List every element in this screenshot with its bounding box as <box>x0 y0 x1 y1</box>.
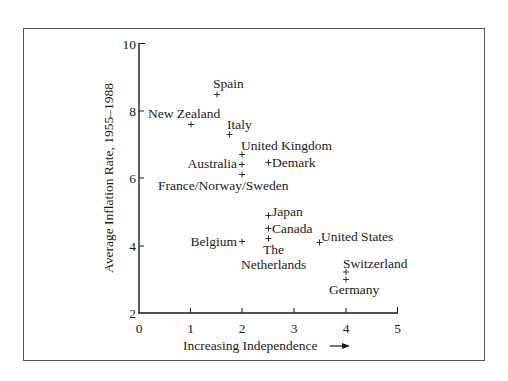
label-australia: Australia <box>188 156 238 171</box>
x-tick-label: 3 <box>291 321 298 336</box>
x-tick-label: 1 <box>187 321 194 336</box>
label-fns: France/Norway/Sweden <box>158 178 289 193</box>
x-tick-label: 4 <box>343 321 350 336</box>
marker-italy <box>227 132 233 138</box>
marker-spain <box>214 92 220 98</box>
y-tick-label: 4 <box>129 239 136 254</box>
point-labels: Spain New Zealand Italy United Kingdom A… <box>148 76 408 297</box>
marker-belgium <box>239 239 245 245</box>
x-axis-title: Increasing Independence <box>183 338 318 353</box>
label-belgium: Belgium <box>191 234 238 249</box>
x-tick-label: 0 <box>136 321 143 336</box>
label-switzerland: Switzerland <box>343 256 408 271</box>
label-netherlands-line1: The <box>263 242 284 257</box>
arrow-right-icon <box>330 343 350 349</box>
scatter-chart: 2 4 6 8 10 0 1 2 3 4 5 Increasing Indepe… <box>0 0 508 381</box>
y-ticks: 2 4 6 8 10 <box>123 37 146 321</box>
label-us: United States <box>321 229 393 244</box>
marker-denmark <box>266 160 272 166</box>
marker-fns <box>239 172 245 178</box>
label-japan: Japan <box>272 204 303 219</box>
label-uk: United Kingdom <box>241 138 333 153</box>
x-ticks: 0 1 2 3 4 5 <box>136 307 402 336</box>
x-tick-label: 5 <box>394 321 401 336</box>
y-tick-label: 6 <box>129 171 136 186</box>
label-canada: Canada <box>272 221 312 236</box>
y-tick-label: 2 <box>129 306 136 321</box>
label-spain: Spain <box>213 76 244 91</box>
marker-canada <box>266 226 272 232</box>
y-tick-label: 10 <box>123 37 137 52</box>
y-tick-label: 8 <box>129 104 136 119</box>
label-denmark: Demark <box>272 155 316 170</box>
x-tick-label: 2 <box>239 321 246 336</box>
marker-japan <box>266 213 272 219</box>
marker-new-zealand <box>188 122 194 128</box>
label-netherlands-line2: Netherlands <box>241 257 306 272</box>
label-italy: Italy <box>227 117 252 132</box>
label-germany: Germany <box>329 282 379 297</box>
marker-netherlands <box>266 236 272 242</box>
label-new-zealand: New Zealand <box>148 106 221 121</box>
marker-australia <box>239 162 245 168</box>
y-axis-title: Average Inflation Rate, 1955–1988 <box>101 83 116 273</box>
